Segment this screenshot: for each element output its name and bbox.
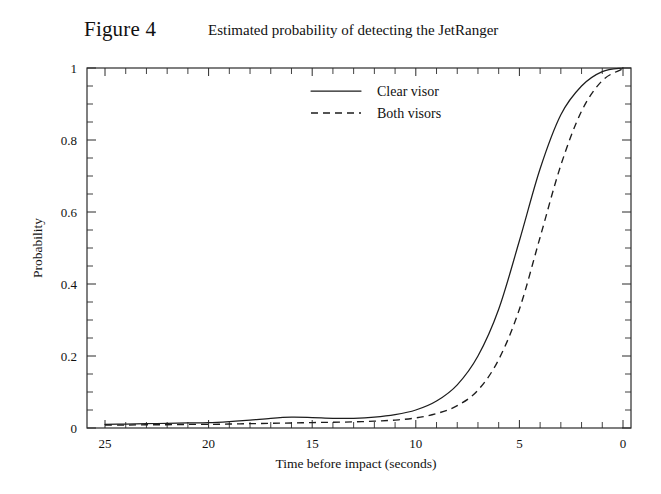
data-series-group [105, 68, 623, 425]
y-axis-title: Probability [30, 218, 45, 278]
y-axis-ticks [87, 68, 631, 428]
y-tick-label: 0.8 [61, 133, 77, 148]
y-tick-label: 0 [71, 421, 78, 436]
x-tick-label: 0 [620, 436, 627, 451]
x-axis-tick-labels: 2520151050 [99, 436, 627, 451]
y-tick-label: 0.4 [61, 277, 78, 292]
x-tick-label: 15 [306, 436, 319, 451]
x-tick-label: 5 [516, 436, 523, 451]
series-line-2 [105, 69, 623, 425]
figure-page: Figure 4 Estimated probability of detect… [0, 0, 661, 494]
series-line-1 [105, 68, 623, 424]
probability-line-chart: 2520151050 00.20.40.60.81 Time before im… [0, 0, 661, 494]
y-tick-label: 0.6 [61, 205, 78, 220]
x-tick-label: 20 [202, 436, 215, 451]
legend-label-1: Clear visor [377, 84, 439, 99]
y-axis-tick-labels: 00.20.40.60.81 [61, 61, 78, 436]
x-tick-label: 10 [409, 436, 422, 451]
y-tick-label: 0.2 [61, 349, 77, 364]
y-tick-label: 1 [71, 61, 78, 76]
x-axis-ticks [105, 68, 623, 428]
x-axis-title: Time before impact (seconds) [275, 456, 436, 471]
chart-legend: Clear visorBoth visors [311, 84, 441, 121]
legend-label-2: Both visors [377, 106, 441, 121]
plot-frame [87, 68, 631, 428]
x-tick-label: 25 [99, 436, 112, 451]
